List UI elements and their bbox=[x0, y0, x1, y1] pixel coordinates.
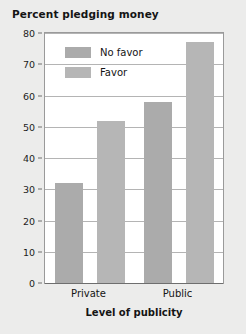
chart-title: Percent pledging money bbox=[12, 8, 159, 20]
y-tick-mark bbox=[38, 220, 42, 221]
y-tick-label: 10 bbox=[23, 246, 35, 257]
y-tick-mark bbox=[38, 283, 42, 284]
y-tick-mark bbox=[38, 158, 42, 159]
bar bbox=[144, 102, 172, 283]
x-tick-label: Private bbox=[71, 288, 106, 299]
y-tick-label: 70 bbox=[23, 59, 35, 70]
y-tick-mark bbox=[38, 95, 42, 96]
y-axis: 01020304050607080 bbox=[0, 32, 42, 284]
y-tick-mark bbox=[38, 189, 42, 190]
y-tick-mark bbox=[38, 126, 42, 127]
bars-container bbox=[45, 33, 223, 283]
bar bbox=[55, 183, 83, 283]
x-axis: PrivatePublic bbox=[44, 288, 224, 304]
x-axis-title: Level of publicity bbox=[44, 307, 224, 318]
y-tick-label: 20 bbox=[23, 215, 35, 226]
bar bbox=[97, 121, 125, 284]
y-tick-label: 30 bbox=[23, 184, 35, 195]
axis-baseline bbox=[45, 283, 223, 284]
y-tick-mark bbox=[38, 251, 42, 252]
y-tick-label: 80 bbox=[23, 28, 35, 39]
y-tick-label: 0 bbox=[29, 278, 35, 289]
plot-area: No favorFavor bbox=[44, 32, 224, 284]
y-tick-label: 50 bbox=[23, 121, 35, 132]
y-tick-mark bbox=[38, 33, 42, 34]
y-tick-label: 60 bbox=[23, 90, 35, 101]
bar bbox=[186, 42, 214, 283]
x-tick-label: Public bbox=[163, 288, 193, 299]
y-tick-mark bbox=[38, 64, 42, 65]
bar-chart-figure: Percent pledging money 01020304050607080… bbox=[0, 0, 246, 334]
y-tick-label: 40 bbox=[23, 153, 35, 164]
